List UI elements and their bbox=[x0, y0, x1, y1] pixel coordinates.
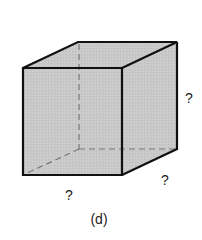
depth-label: ? bbox=[161, 172, 169, 188]
width-label: ? bbox=[65, 187, 73, 203]
figure-caption: (d) bbox=[90, 211, 107, 227]
cube-front-face bbox=[23, 68, 122, 175]
height-label: ? bbox=[185, 90, 193, 106]
cube-diagram: ? ? ? (d) bbox=[0, 0, 202, 240]
